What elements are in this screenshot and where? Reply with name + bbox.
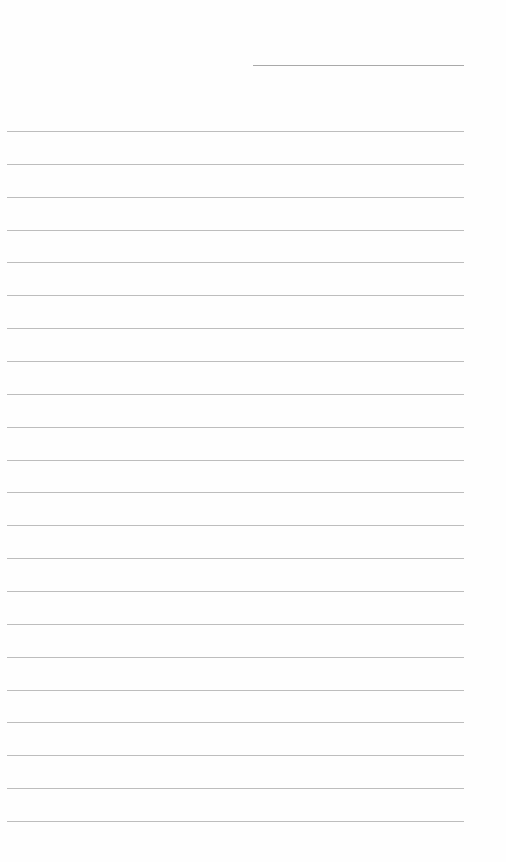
ruled-line[interactable] bbox=[7, 624, 464, 625]
ruled-line[interactable] bbox=[7, 427, 464, 428]
ruled-line[interactable] bbox=[7, 722, 464, 723]
ruled-line[interactable] bbox=[7, 230, 464, 231]
ruled-line[interactable] bbox=[7, 788, 464, 789]
ruled-line[interactable] bbox=[7, 821, 464, 822]
ruled-line[interactable] bbox=[7, 361, 464, 362]
ruled-line[interactable] bbox=[7, 525, 464, 526]
ruled-line[interactable] bbox=[7, 164, 464, 165]
ruled-line[interactable] bbox=[7, 755, 464, 756]
ruled-line[interactable] bbox=[7, 262, 464, 263]
header-write-in-line[interactable] bbox=[253, 65, 464, 66]
ruled-line[interactable] bbox=[7, 657, 464, 658]
ruled-line[interactable] bbox=[7, 197, 464, 198]
ruled-line[interactable] bbox=[7, 460, 464, 461]
lined-paper-page bbox=[0, 0, 506, 862]
ruled-line[interactable] bbox=[7, 558, 464, 559]
ruled-line[interactable] bbox=[7, 131, 464, 132]
ruled-line[interactable] bbox=[7, 394, 464, 395]
ruled-line[interactable] bbox=[7, 328, 464, 329]
ruled-line[interactable] bbox=[7, 690, 464, 691]
ruled-line[interactable] bbox=[7, 295, 464, 296]
ruled-line[interactable] bbox=[7, 591, 464, 592]
ruled-line[interactable] bbox=[7, 492, 464, 493]
